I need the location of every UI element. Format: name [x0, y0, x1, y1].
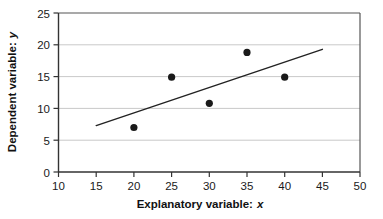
ytick-label-25: 25	[37, 8, 50, 20]
xtick-label-45: 45	[316, 180, 329, 192]
ytick-label-5: 5	[44, 135, 50, 147]
ytick-label-20: 20	[37, 39, 50, 51]
data-point	[243, 49, 250, 56]
xtick-label-25: 25	[165, 180, 178, 192]
xtick-label-30: 30	[203, 180, 216, 192]
x-axis-title-text: Explanatory variable:	[137, 198, 253, 210]
scatter-plot-figure: 0 5 10 15 20 25 10 15 20 25 30 35	[0, 0, 383, 219]
y-axis-title-text: Dependent variable:	[6, 42, 18, 152]
xtick-label-10: 10	[52, 180, 65, 192]
xtick-label-50: 50	[354, 180, 367, 192]
x-axis-tick-labels: 10 15 20 25 30 35 40 45 50	[52, 180, 366, 192]
xtick-label-15: 15	[90, 180, 103, 192]
ytick-label-0: 0	[44, 167, 50, 179]
data-point	[206, 100, 213, 107]
ytick-label-15: 15	[37, 71, 50, 83]
xtick-label-40: 40	[278, 180, 291, 192]
x-axis-title-variable: x	[256, 198, 264, 210]
chart-canvas: 0 5 10 15 20 25 10 15 20 25 30 35	[0, 0, 383, 219]
data-point	[130, 124, 137, 131]
data-point	[281, 74, 288, 81]
x-axis-title: Explanatory variable:x	[137, 198, 264, 210]
xtick-label-20: 20	[128, 180, 141, 192]
ytick-label-10: 10	[37, 103, 50, 115]
y-axis-title: Dependent variable:y	[6, 31, 18, 152]
xtick-label-35: 35	[241, 180, 254, 192]
y-axis-title-variable: y	[6, 31, 18, 39]
data-point	[168, 74, 175, 81]
